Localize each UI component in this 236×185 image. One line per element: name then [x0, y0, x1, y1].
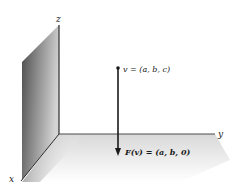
y-axis-label: y	[217, 129, 224, 139]
projection-diagram: z y x v = (a, b, c) F(v) = (a, b, 0)	[0, 0, 236, 185]
vector-label: v = (a, b, c)	[123, 65, 170, 74]
x-axis-label: x	[9, 174, 14, 184]
projection-label: F(v) = (a, b, 0)	[124, 147, 190, 157]
z-axis-label: z	[55, 14, 61, 24]
